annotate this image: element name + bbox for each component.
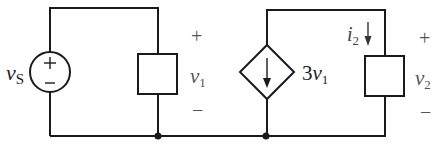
junction-dot-right — [263, 133, 270, 140]
dependent-label-sub: 1 — [322, 72, 329, 87]
element2-label-sub: 2 — [424, 77, 431, 92]
current-arrow-icon — [365, 22, 372, 46]
element1-label-sub: 1 — [199, 75, 206, 90]
element1-plus-sign: + — [191, 26, 202, 46]
dependent-label-main: v — [313, 61, 322, 85]
junction-dot-left — [155, 133, 162, 140]
current-label: i2 — [347, 24, 359, 44]
dependent-current-source-icon — [240, 45, 294, 99]
element2-box — [365, 56, 404, 96]
dependent-source-label: 3v1 — [302, 63, 328, 84]
circuit-diagram: vS + v1 − 3v1 i2 + v2 − — [0, 0, 446, 158]
element1-voltage-label: v1 — [190, 66, 206, 87]
element1-minus-sign: − — [192, 100, 203, 120]
circuit-wiring — [0, 0, 446, 158]
current-label-main: i — [347, 23, 353, 45]
voltage-source-icon — [30, 52, 70, 92]
element2-voltage-label: v2 — [415, 68, 431, 89]
source-label-sub: S — [16, 71, 24, 87]
dependent-gain: 3 — [302, 61, 313, 85]
current-label-sub: 2 — [353, 33, 360, 48]
element1-box — [138, 54, 177, 94]
element2-minus-sign: − — [420, 102, 431, 122]
source-label-main: v — [6, 60, 16, 85]
element2-label-main: v — [415, 66, 424, 90]
element2-plus-sign: + — [419, 28, 430, 48]
wire-left-top — [50, 8, 158, 54]
element1-label-main: v — [190, 64, 199, 88]
wire-bottom-rail — [50, 96, 385, 136]
source-label: vS — [6, 62, 24, 84]
